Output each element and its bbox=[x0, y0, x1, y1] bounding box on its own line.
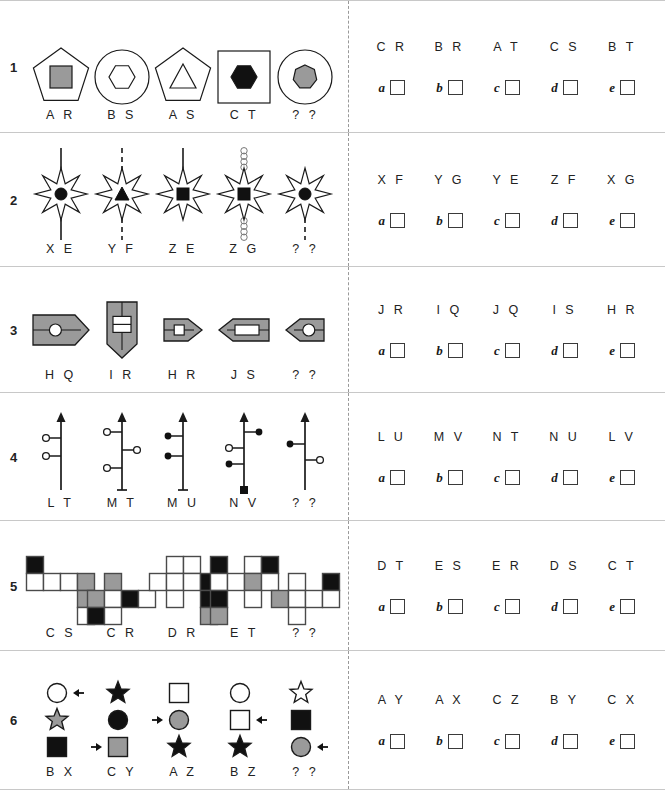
option-letter: d bbox=[551, 733, 558, 749]
option-letter: d bbox=[551, 470, 558, 486]
figure-label-strip: C SC RD RE T? ? bbox=[0, 626, 348, 650]
answer-option[interactable]: c bbox=[478, 343, 536, 359]
answer-option[interactable]: e bbox=[593, 599, 651, 615]
option-checkbox[interactable] bbox=[563, 80, 578, 95]
option-checkbox[interactable] bbox=[390, 80, 405, 95]
answer-code: Y G bbox=[421, 173, 479, 187]
answer-code: E R bbox=[478, 559, 536, 573]
option-letter: a bbox=[379, 213, 386, 229]
option-checkbox[interactable] bbox=[505, 80, 520, 95]
answer-option[interactable]: a bbox=[363, 733, 421, 749]
answer-option[interactable]: a bbox=[363, 213, 421, 229]
option-checkbox[interactable] bbox=[563, 343, 578, 358]
answer-option[interactable]: b bbox=[421, 213, 479, 229]
figure-label: L T bbox=[30, 496, 91, 510]
answer-option[interactable]: b bbox=[421, 733, 479, 749]
figure-item bbox=[30, 46, 91, 108]
answer-option[interactable]: d bbox=[536, 599, 594, 615]
answer-option[interactable]: d bbox=[536, 733, 594, 749]
option-letter: e bbox=[609, 213, 615, 229]
answer-code: Z F bbox=[536, 173, 594, 187]
option-checkbox[interactable] bbox=[620, 80, 635, 95]
answer-code: A T bbox=[478, 40, 536, 54]
option-letter: d bbox=[551, 80, 558, 96]
answer-option[interactable]: b bbox=[421, 599, 479, 615]
figure-label-strip: A RB SA SC T? ? bbox=[0, 108, 348, 132]
answer-option-strip: abcde bbox=[349, 343, 665, 359]
answer-option[interactable]: b bbox=[421, 80, 479, 96]
option-checkbox[interactable] bbox=[563, 213, 578, 228]
answer-option[interactable]: c bbox=[478, 733, 536, 749]
figure-label: Y F bbox=[91, 242, 152, 256]
answer-option[interactable]: c bbox=[478, 80, 536, 96]
option-checkbox[interactable] bbox=[505, 734, 520, 749]
answer-option[interactable]: c bbox=[478, 470, 536, 486]
option-checkbox[interactable] bbox=[563, 599, 578, 614]
answer-option[interactable]: b bbox=[421, 470, 479, 486]
answer-option[interactable]: d bbox=[536, 80, 594, 96]
option-checkbox[interactable] bbox=[620, 343, 635, 358]
figure-label-strip: B XC YA ZB Z? ? bbox=[0, 765, 348, 789]
option-letter: a bbox=[379, 733, 386, 749]
answer-option[interactable]: e bbox=[593, 213, 651, 229]
answer-option[interactable]: c bbox=[478, 213, 536, 229]
answer-option[interactable]: e bbox=[593, 470, 651, 486]
option-checkbox[interactable] bbox=[390, 470, 405, 485]
option-checkbox[interactable] bbox=[448, 213, 463, 228]
figure-label-strip: H QI RH RJ S? ? bbox=[0, 368, 348, 392]
option-checkbox[interactable] bbox=[620, 470, 635, 485]
option-checkbox[interactable] bbox=[448, 343, 463, 358]
option-checkbox[interactable] bbox=[390, 734, 405, 749]
answer-option-strip: abcde bbox=[349, 213, 665, 229]
option-checkbox[interactable] bbox=[390, 599, 405, 614]
option-checkbox[interactable] bbox=[505, 470, 520, 485]
figure-label: A Z bbox=[152, 765, 213, 779]
figure-label: Z G bbox=[214, 242, 275, 256]
answer-option[interactable]: d bbox=[536, 470, 594, 486]
figure-item bbox=[91, 292, 152, 368]
answer-option[interactable]: a bbox=[363, 343, 421, 359]
answer-code: B R bbox=[421, 40, 479, 54]
figure-label: ? ? bbox=[275, 242, 336, 256]
option-letter: b bbox=[436, 343, 443, 359]
answer-option[interactable]: d bbox=[536, 213, 594, 229]
answer-option[interactable]: e bbox=[593, 343, 651, 359]
option-checkbox[interactable] bbox=[448, 734, 463, 749]
option-letter: c bbox=[494, 213, 500, 229]
answer-code: J R bbox=[363, 303, 421, 317]
figure-item bbox=[214, 46, 275, 108]
answer-option[interactable]: e bbox=[593, 80, 651, 96]
figure-unknown bbox=[275, 410, 336, 496]
option-checkbox[interactable] bbox=[620, 213, 635, 228]
answer-option-strip: abcde bbox=[349, 599, 665, 615]
option-checkbox[interactable] bbox=[448, 80, 463, 95]
answer-option[interactable]: a bbox=[363, 80, 421, 96]
option-checkbox[interactable] bbox=[390, 343, 405, 358]
option-checkbox[interactable] bbox=[620, 599, 635, 614]
answer-code: N T bbox=[478, 430, 536, 444]
figure-label: N V bbox=[214, 496, 275, 510]
option-checkbox[interactable] bbox=[620, 734, 635, 749]
figure-label: C R bbox=[91, 626, 152, 640]
answer-option[interactable]: a bbox=[363, 470, 421, 486]
option-letter: e bbox=[609, 599, 615, 615]
figure-label: A S bbox=[152, 108, 213, 122]
option-checkbox[interactable] bbox=[448, 599, 463, 614]
answer-option[interactable]: a bbox=[363, 599, 421, 615]
option-checkbox[interactable] bbox=[505, 599, 520, 614]
answer-option[interactable]: c bbox=[478, 599, 536, 615]
answer-option[interactable]: e bbox=[593, 733, 651, 749]
answer-option[interactable]: d bbox=[536, 343, 594, 359]
puzzle-row: 3H QI RH RJ S? ?J RI QJ QI SH Rabcde bbox=[0, 266, 665, 392]
option-checkbox[interactable] bbox=[505, 213, 520, 228]
row-number: 3 bbox=[10, 322, 17, 337]
option-checkbox[interactable] bbox=[448, 470, 463, 485]
answer-option[interactable]: b bbox=[421, 343, 479, 359]
option-checkbox[interactable] bbox=[563, 734, 578, 749]
answer-code: B T bbox=[593, 40, 651, 54]
figure-item bbox=[30, 679, 91, 765]
option-checkbox[interactable] bbox=[505, 343, 520, 358]
figure-label: Z E bbox=[152, 242, 213, 256]
option-checkbox[interactable] bbox=[563, 470, 578, 485]
option-checkbox[interactable] bbox=[390, 213, 405, 228]
